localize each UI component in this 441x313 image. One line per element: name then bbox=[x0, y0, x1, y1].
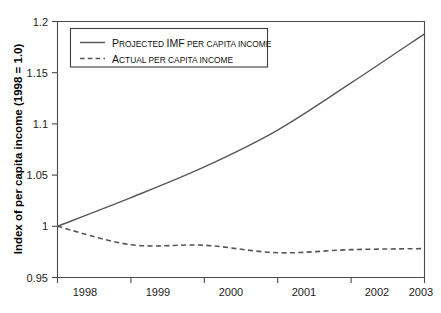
legend-projected-lead: P bbox=[112, 37, 119, 49]
legend-actual-lead: A bbox=[112, 53, 119, 65]
x-tick-label: 1998 bbox=[73, 286, 97, 298]
y-axis-title-text: Index of per capita income (1998 = 1.0) bbox=[12, 44, 24, 255]
legend-label-actual: ACTUAL PER CAPITA INCOME bbox=[112, 53, 233, 65]
legend-projected-tail: PER CAPITA INCOME bbox=[185, 39, 272, 49]
x-tick-label: 2000 bbox=[219, 286, 243, 298]
y-tick-label: 1.1 bbox=[33, 118, 48, 130]
x-tick-label: 2001 bbox=[292, 286, 316, 298]
chart-page: 1.2 1.15 1.1 1.05 1 0.95 1998 1999 2000 … bbox=[0, 0, 441, 313]
y-axis-title: Index of per capita income (1998 = 1.0) bbox=[12, 44, 24, 255]
x-tick-label: 2002 bbox=[365, 286, 389, 298]
y-tick-label: 1.2 bbox=[33, 16, 48, 28]
legend-actual-rest: CTUAL PER CAPITA INCOME bbox=[119, 55, 233, 65]
x-tick-label: 2003 bbox=[409, 286, 433, 298]
y-tick-label: 1.05 bbox=[27, 169, 48, 181]
x-axis-ticks bbox=[58, 278, 425, 284]
legend-projected-rest: ROJECTED bbox=[119, 39, 166, 49]
x-axis-tick-labels: 1998 1999 2000 2001 2002 2003 bbox=[73, 286, 433, 298]
y-tick-label: 0.95 bbox=[27, 272, 48, 284]
x-tick-label: 1999 bbox=[146, 286, 170, 298]
line-chart: 1.2 1.15 1.1 1.05 1 0.95 1998 1999 2000 … bbox=[0, 0, 441, 313]
y-tick-label: 1 bbox=[42, 220, 48, 232]
y-axis-tick-labels: 1.2 1.15 1.1 1.05 1 0.95 bbox=[27, 16, 48, 284]
series-actual bbox=[58, 226, 425, 253]
legend: PROJECTED IMF PER CAPITA INCOME ACTUAL P… bbox=[71, 29, 272, 68]
legend-projected-mid: IMF bbox=[166, 37, 184, 49]
legend-label-projected: PROJECTED IMF PER CAPITA INCOME bbox=[112, 37, 272, 49]
y-tick-label: 1.15 bbox=[27, 67, 48, 79]
y-axis-ticks bbox=[52, 22, 58, 278]
